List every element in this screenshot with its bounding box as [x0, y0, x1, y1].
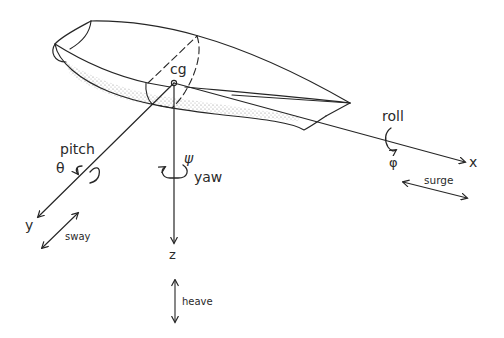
- theta-symbol: θ: [56, 160, 65, 176]
- hull-sheer-line: [55, 44, 170, 87]
- roll-arrow-icon: [386, 128, 396, 151]
- surge-motion: surge: [403, 174, 467, 198]
- pitch-arrow-icon: [90, 168, 99, 183]
- yaw-rotation: ψ yaw: [162, 150, 222, 185]
- x-axis: x: [174, 83, 477, 170]
- heave-label: heave: [182, 296, 213, 307]
- ship-motion-diagram: cg x roll φ surge y pitch θ sway z ψ: [0, 0, 504, 338]
- sway-motion: sway: [42, 213, 91, 248]
- y-axis: y: [25, 83, 174, 233]
- psi-symbol: ψ: [184, 150, 194, 166]
- yaw-label: yaw: [194, 169, 222, 185]
- ship-hull: [53, 21, 350, 130]
- cg-label: cg: [170, 61, 187, 77]
- x-axis-label: x: [469, 154, 477, 170]
- surge-label: surge: [424, 174, 453, 186]
- pitch-rotation: pitch θ: [56, 141, 99, 183]
- hull-stern-inner: [70, 21, 91, 49]
- yaw-arrow-icon: [162, 165, 187, 178]
- heave-motion: heave: [175, 280, 213, 322]
- roll-label: roll: [382, 108, 404, 124]
- hull-stern: [53, 21, 91, 62]
- z-axis-label: z: [169, 247, 176, 262]
- roll-rotation: roll φ: [382, 108, 404, 170]
- z-axis: z: [169, 85, 176, 262]
- y-axis-label: y: [25, 217, 33, 233]
- pitch-label: pitch: [60, 141, 95, 157]
- hull-bow-stem: [326, 103, 350, 116]
- phi-symbol: φ: [389, 155, 398, 170]
- sway-label: sway: [65, 231, 91, 242]
